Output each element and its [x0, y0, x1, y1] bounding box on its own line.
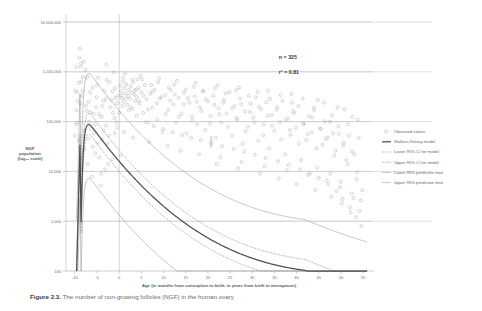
chart-canvas: 1001,00010,000100,0001,000,00010,000,000…: [0, 0, 482, 296]
legend-label: Lower 95% prediction limit: [394, 170, 444, 175]
svg-text:1,000: 1,000: [51, 219, 62, 224]
inplot-note: menses: [209, 136, 213, 148]
svg-text:25: 25: [228, 275, 233, 280]
svg-text:50: 50: [339, 275, 344, 280]
svg-text:10,000,000: 10,000,000: [41, 20, 62, 25]
observed-values-points: [73, 47, 363, 227]
svg-text:10: 10: [161, 275, 166, 280]
gridlines: [66, 22, 432, 221]
svg-text:55: 55: [361, 275, 366, 280]
svg-text:1,000,000: 1,000,000: [43, 69, 62, 74]
ngf-population-scatter-chart: 1001,00010,000100,0001,000,00010,000,000…: [0, 0, 482, 296]
upper-95-ci: [77, 114, 367, 271]
x-axis-title: Age (in months from conception to birth;…: [142, 283, 297, 288]
axis-titles: Age (in months from conception to birth;…: [18, 146, 297, 288]
svg-text:100,000: 100,000: [46, 119, 62, 124]
y-axis-ticks: 1001,00010,000100,0001,000,00010,000,000: [41, 20, 67, 274]
x-axis: -10-50510152025303540455055: [66, 271, 374, 280]
svg-text:-5: -5: [95, 275, 99, 280]
svg-text:100: 100: [54, 269, 62, 274]
svg-text:40: 40: [294, 275, 299, 280]
legend-label: Lower 95% CI for model: [394, 149, 439, 154]
caption-label: Figure 2.3.: [30, 293, 61, 300]
legend-label: Observed values: [394, 129, 425, 134]
stat-annotation: n = 325: [279, 54, 297, 60]
svg-text:10,000: 10,000: [48, 169, 61, 174]
svg-text:20: 20: [206, 275, 211, 280]
svg-text:0: 0: [118, 275, 121, 280]
stat-annotation: r² = 0.81: [279, 69, 299, 75]
legend-marker: [385, 130, 388, 133]
svg-text:30: 30: [250, 275, 255, 280]
caption-text: The number of non-growing follicles (NGF…: [63, 293, 234, 300]
lower-95-prediction-limit: [77, 178, 367, 271]
lower-95-ci: [77, 135, 367, 271]
legend-label: Upper 95% CI for model: [394, 160, 439, 165]
figure-caption: Figure 2.3. The number of non-growing fo…: [0, 293, 482, 311]
svg-text:-10: -10: [72, 275, 79, 280]
svg-text:45: 45: [317, 275, 322, 280]
wallace-kelsey-model: [77, 125, 367, 271]
birth-vertical-line: [66, 14, 119, 271]
chart-legend: Observed valuesWallace-Kelsey modelLower…: [382, 129, 444, 185]
svg-text:15: 15: [183, 275, 188, 280]
y-axis-title: NGFpopulation(log₁₀ scale): [18, 146, 44, 161]
legend-label: Wallace-Kelsey model: [394, 139, 435, 144]
svg-text:5: 5: [140, 275, 143, 280]
figure-root: 1001,00010,000100,0001,000,00010,000,000…: [0, 0, 482, 311]
svg-text:35: 35: [272, 275, 277, 280]
legend-label: Upper 95% prediction limit: [394, 180, 444, 185]
